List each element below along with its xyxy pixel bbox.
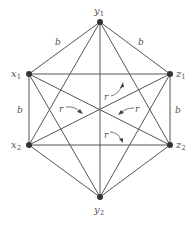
vertex-z2	[167, 142, 173, 148]
k6-graph-diagram: y1 x1 z1 x2 z2 y2 b b b b r r r r	[0, 0, 193, 225]
vertex-x2	[26, 142, 32, 148]
edge-y1-x1	[29, 22, 100, 74]
label-y1: y1	[93, 5, 104, 18]
label-z2: z2	[175, 139, 186, 152]
label-z1: z1	[175, 68, 186, 81]
label-x1: x1	[11, 68, 21, 81]
edge-x2-y2	[29, 145, 100, 197]
vertex-y2	[97, 194, 103, 200]
edge-x1-y2	[29, 74, 100, 197]
vertex-y1	[97, 19, 103, 25]
edge-label-x1-x2: b	[17, 105, 23, 115]
arrowhead-lower-icon	[119, 138, 123, 143]
vertex-labels: y1 x1 z1 x2 z2 y2	[11, 5, 186, 217]
edge-labels: b b b b	[17, 37, 181, 115]
arrowhead-upper-icon	[120, 82, 124, 88]
vertex-z1	[167, 71, 173, 77]
edge-z1-y2	[100, 74, 170, 197]
edge-z2-y2	[100, 145, 170, 197]
curved-arrow-upper-icon	[111, 85, 122, 96]
edge-y1-z2	[100, 22, 170, 145]
edge-label-z1-z2: b	[175, 105, 181, 115]
region-label-right: r	[135, 104, 140, 114]
region-label-left: r	[59, 104, 64, 114]
label-x2: x2	[11, 139, 21, 152]
edge-y1-z1	[100, 22, 170, 74]
vertex-x1	[26, 71, 32, 77]
edge-label-y1-x1: b	[55, 37, 61, 47]
edge-label-y1-z1: b	[138, 37, 144, 47]
region-label-upper: r	[104, 92, 109, 102]
curved-arrow-lower-icon	[110, 132, 121, 140]
edges	[29, 22, 170, 197]
region-label-lower: r	[104, 130, 109, 140]
edge-y1-x2	[29, 22, 100, 145]
label-y2: y2	[93, 204, 104, 217]
